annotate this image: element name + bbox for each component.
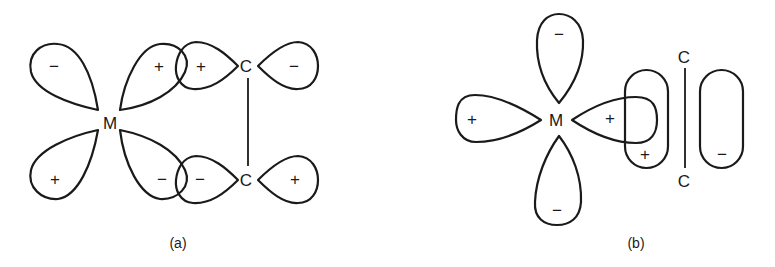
sign-pi-right: −: [717, 145, 727, 164]
orbital-diagram: M C C − + + − + − − + (a) M C C − − + + …: [0, 0, 775, 267]
carbon-bottom-lobe-left: [176, 156, 238, 203]
sign-pi-left: +: [640, 145, 650, 164]
carbon-top-label-a: C: [240, 57, 252, 76]
carbon-top-lobe-left: [176, 42, 238, 89]
panel-b: M C C − − + + + − (b): [456, 14, 743, 251]
carbon-bottom-label-a: C: [240, 171, 252, 190]
caption-b: (b): [627, 235, 644, 251]
sign-metal-bottom: −: [552, 201, 562, 220]
sign-metal-upper-left: −: [49, 57, 59, 76]
sign-metal-upper-right: +: [154, 57, 164, 76]
sign-carbon-bottom-right: +: [290, 170, 300, 189]
carbon-top-label-b: C: [678, 48, 690, 67]
sign-metal-lower-right: −: [157, 170, 167, 189]
sign-carbon-top-right: −: [289, 57, 299, 76]
metal-lobe-lower-left: [30, 130, 98, 199]
carbon-bottom-lobe-right: [258, 156, 318, 203]
sign-metal-left: +: [467, 110, 477, 129]
sign-carbon-top-left: +: [196, 57, 206, 76]
caption-a: (a): [169, 235, 186, 251]
sign-metal-right: +: [605, 109, 615, 128]
metal-label-a: M: [103, 114, 117, 133]
metal-lobe-upper-left: [30, 44, 98, 110]
carbon-top-lobe-right: [258, 42, 318, 89]
sign-metal-lower-left: +: [50, 170, 60, 189]
sign-metal-top: −: [554, 25, 564, 44]
carbon-bottom-label-b: C: [678, 172, 690, 191]
metal-label-b: M: [549, 111, 563, 130]
sign-carbon-bottom-left: −: [195, 170, 205, 189]
panel-a: M C C − + + − + − − + (a): [30, 42, 318, 251]
